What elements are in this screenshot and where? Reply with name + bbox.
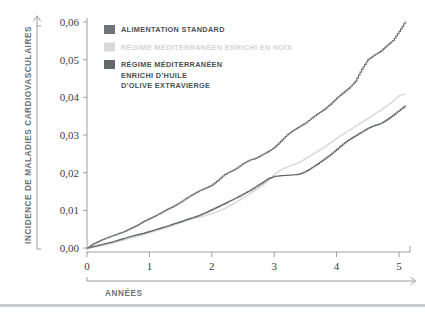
- legend-swatch: [104, 43, 115, 52]
- x-axis-bracket: [87, 277, 407, 281]
- legend-entry: ALIMENTATION STANDARD: [104, 25, 225, 34]
- legend-label: ALIMENTATION STANDARD: [121, 25, 225, 34]
- y-axis-arrow-icon: [34, 16, 41, 26]
- y-axis-tick-label: 0,00: [60, 242, 80, 254]
- x-axis-title: ANNÉES: [105, 288, 142, 298]
- footer-divider: [0, 304, 425, 307]
- x-axis: 012345: [84, 246, 410, 272]
- y-axis-tick-label: 0,03: [60, 129, 80, 141]
- x-axis-tick-label: 3: [271, 260, 277, 272]
- x-axis-tick-label: 2: [209, 260, 215, 272]
- y-axis-tick-label: 0,01: [60, 204, 79, 216]
- y-axis-title: INCIDENCE DE MALADIES CARDIOVASCULAIRES: [24, 26, 33, 244]
- x-axis-title-group: ANNÉES: [87, 277, 416, 298]
- y-axis-tick-label: 0,04: [60, 91, 80, 103]
- y-axis-title-group: INCIDENCE DE MALADIES CARDIOVASCULAIRES: [24, 16, 41, 249]
- legend-swatch: [104, 60, 115, 69]
- x-axis-tick-label: 1: [147, 260, 153, 272]
- legend-entry: RÉGIME MÉDITERRANÉEN ENRICHI EN NOIX: [104, 43, 292, 52]
- x-axis-tick-label: 4: [334, 260, 340, 272]
- y-axis-tick-label: 0,02: [60, 167, 79, 179]
- x-axis-tick-label: 0: [84, 260, 90, 272]
- legend-label: ENRICHI D'HUILE: [121, 71, 187, 80]
- legend-entry: RÉGIME MÉDITERRANÉENENRICHI D'HUILED'OLI…: [104, 60, 222, 90]
- legend-label: RÉGIME MÉDITERRANÉEN: [121, 60, 222, 69]
- chart-legend: ALIMENTATION STANDARDRÉGIME MÉDITERRANÉE…: [104, 25, 292, 90]
- legend-label: D'OLIVE EXTRAVIERGE: [121, 81, 210, 90]
- chart-figure: 0,000,010,020,030,040,050,06INCIDENCE DE…: [0, 0, 425, 313]
- plot-series-group: [87, 21, 405, 248]
- series-line-2: [87, 94, 405, 248]
- y-axis: 0,000,010,020,030,040,050,06: [60, 16, 87, 254]
- legend-swatch: [104, 25, 115, 34]
- y-axis-tick-label: 0,05: [60, 54, 80, 66]
- legend-label: RÉGIME MÉDITERRANÉEN ENRICHI EN NOIX: [121, 43, 292, 52]
- x-axis-tick-label: 5: [396, 260, 402, 272]
- x-axis-arrow-icon: [407, 278, 416, 285]
- y-axis-bracket: [37, 26, 41, 249]
- y-axis-tick-label: 0,06: [60, 16, 80, 28]
- cardiovascular-incidence-line-chart: 0,000,010,020,030,040,050,06INCIDENCE DE…: [0, 0, 425, 313]
